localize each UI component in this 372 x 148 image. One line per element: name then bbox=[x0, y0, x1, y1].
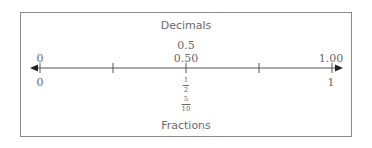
fraction-label-0: 0 bbox=[37, 77, 44, 88]
right-arrow-icon bbox=[335, 65, 343, 72]
left-arrow-icon bbox=[30, 65, 38, 72]
fraction-one-half: 1 2 bbox=[183, 77, 189, 94]
fraction-five-tenths: 5 10 bbox=[182, 96, 191, 113]
fractions-heading: Fractions bbox=[161, 120, 211, 131]
fraction-label-1: 1 bbox=[328, 77, 335, 88]
